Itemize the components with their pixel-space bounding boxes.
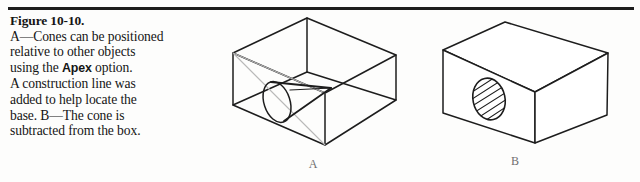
cone-upper-edge xyxy=(271,82,331,88)
box-a-bottom-face xyxy=(233,72,396,145)
figure-caption-line-3: using the Apex option. xyxy=(10,60,210,77)
illustration-a xyxy=(233,18,396,145)
cone-solid xyxy=(258,78,331,126)
cone-inner-edge xyxy=(290,88,331,90)
cone-base-ellipse xyxy=(258,78,296,126)
conical-hole xyxy=(466,74,513,132)
figure-caption-line-7: subtracted from the box. xyxy=(10,123,210,139)
figure-caption: Figure 10-10. A—Cones can be positioned … xyxy=(10,13,210,139)
box-a-vertical-edges xyxy=(233,18,396,145)
box-a-construction-line xyxy=(233,53,325,145)
caption-bold-term-apex: Apex xyxy=(62,61,92,75)
figure-caption-line-4: A construction line was xyxy=(10,76,210,92)
illustration-a-label: A xyxy=(309,157,318,171)
figure-container: Figure 10-10. A—Cones can be positioned … xyxy=(0,0,640,182)
hole-hatching xyxy=(466,74,513,132)
figure-caption-line-1: A—Cones can be positioned xyxy=(10,29,210,45)
figure-caption-heading: Figure 10-10. xyxy=(10,13,210,29)
figure-caption-line-2: relative to other objects xyxy=(10,44,210,60)
box-b-top-face xyxy=(443,22,608,92)
box-b-left-face xyxy=(443,50,535,143)
box-a-top-face xyxy=(233,18,396,93)
caption-line-3-prefix: using the xyxy=(10,60,62,75)
cone-lower-edge xyxy=(284,88,331,121)
illustration-b-label: B xyxy=(511,154,519,168)
caption-line-3-suffix: option. xyxy=(92,60,133,75)
hole-ellipse-outline xyxy=(469,75,509,123)
figure-caption-line-5: added to help locate the xyxy=(10,92,210,108)
illustration-b xyxy=(443,22,608,143)
box-b-right-face xyxy=(535,53,608,143)
figure-caption-line-6: base. B—The cone is xyxy=(10,108,210,124)
figure-top-rule xyxy=(8,7,634,10)
